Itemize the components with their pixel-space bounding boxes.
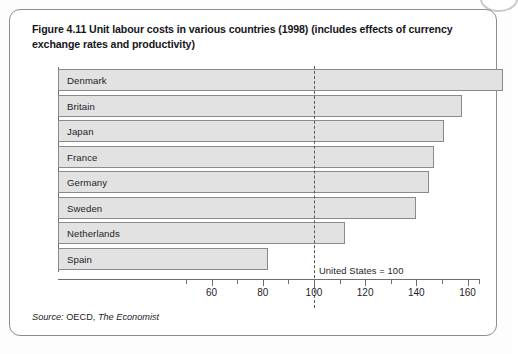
bar	[58, 146, 434, 168]
axis-minor-tick	[340, 279, 341, 284]
source-prefix: Source:	[32, 312, 64, 322]
bar-category-label: Netherlands	[67, 228, 120, 239]
bar-row: Spain	[58, 248, 488, 270]
bar-row: Germany	[58, 171, 488, 193]
axis-minor-tick	[288, 279, 289, 284]
bar-category-label: Japan	[67, 126, 94, 137]
bar-row: Britain	[58, 95, 488, 117]
bar-row: Japan	[58, 120, 488, 142]
axis-tick-label: 80	[257, 287, 268, 298]
bar	[58, 197, 416, 219]
figure-title: Figure 4.11 Unit labour costs in various…	[32, 22, 482, 52]
bar	[58, 120, 444, 142]
axis-tick-label: 60	[206, 287, 217, 298]
bar-category-label: France	[67, 151, 97, 162]
source-note: Source: OECD, The Economist	[32, 312, 159, 322]
axis-tick-label: 160	[459, 287, 476, 298]
axis-minor-tick	[391, 279, 392, 284]
axis-tick-label: 120	[357, 287, 374, 298]
bar-category-label: Sweden	[67, 202, 102, 213]
source-body: OECD,	[64, 312, 98, 322]
chart-plot-area: DenmarkBritainJapanFranceGermanySwedenNe…	[58, 67, 488, 272]
bar	[58, 171, 429, 193]
axis-major-tick	[212, 279, 213, 286]
axis-minor-tick	[442, 279, 443, 284]
axis-major-tick	[314, 279, 315, 286]
bar	[58, 95, 462, 117]
source-publication: The Economist	[98, 312, 159, 322]
bar-category-label: Denmark	[67, 75, 107, 86]
bar-category-label: Britain	[67, 100, 95, 111]
reference-line-label: United States = 100	[319, 265, 404, 276]
axis-tick-label: 100	[306, 287, 323, 298]
figure-card: Figure 4.11 Unit labour costs in various…	[9, 9, 497, 336]
bar-row: Sweden	[58, 197, 488, 219]
axis-end-tick	[479, 279, 480, 284]
axis-minor-tick	[186, 279, 187, 284]
bar	[58, 69, 503, 91]
axis-tick-label: 140	[408, 287, 425, 298]
axis-minor-tick	[237, 279, 238, 284]
bar-category-label: Germany	[67, 177, 107, 188]
bar-row: France	[58, 146, 488, 168]
bar-row: Denmark	[58, 69, 488, 91]
axis-major-tick	[468, 279, 469, 286]
bar-row: Netherlands	[58, 222, 488, 244]
reference-line-100	[314, 66, 315, 308]
axis-major-tick	[263, 279, 264, 286]
axis-major-tick	[416, 279, 417, 286]
axis-major-tick	[365, 279, 366, 286]
bar-category-label: Spain	[67, 253, 92, 264]
